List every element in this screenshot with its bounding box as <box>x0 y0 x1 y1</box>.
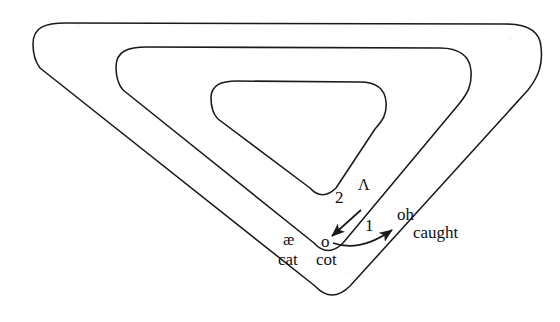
word-label-caught: caught <box>413 224 458 241</box>
middle-triangle-contour <box>116 47 471 251</box>
arrow-2-shaft <box>332 210 361 236</box>
vowel-space-diagram: æ o Λ oh cat cot caught 2 1 <box>0 0 560 322</box>
word-label-cot: cot <box>316 251 337 268</box>
vowel-label-ash: æ <box>283 231 294 248</box>
vowel-label-open-o: o <box>321 233 330 250</box>
word-label-cat: cat <box>278 251 298 268</box>
arrow-number-2: 2 <box>335 189 344 206</box>
vowel-diagram-canvas <box>0 0 560 322</box>
vowel-label-oh: oh <box>397 206 414 223</box>
arrow-number-1: 1 <box>365 217 374 234</box>
vowel-label-wedge: Λ <box>358 177 370 193</box>
